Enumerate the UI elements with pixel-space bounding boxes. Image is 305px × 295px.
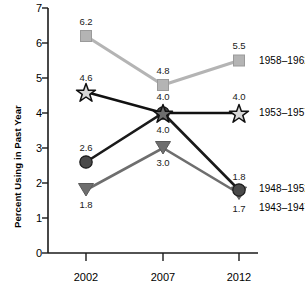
marker-1948-1952-2012 bbox=[233, 184, 245, 196]
marker-1958-1962-2012 bbox=[234, 55, 245, 66]
legend-label-1953-1957: 1953–1957 bbox=[259, 107, 305, 118]
data-label-1958-1962-2002: 6.2 bbox=[71, 16, 101, 27]
data-label-1943-1947-2012: 1.7 bbox=[224, 203, 254, 214]
marker-1943-1947-2002 bbox=[79, 184, 94, 197]
legend-label-1948-1952: 1948–1952 bbox=[259, 183, 305, 194]
line-chart: Percent Using in Past Year 7 6 5 4 3 2 1… bbox=[0, 0, 305, 295]
marker-1953-1957-2012 bbox=[230, 105, 249, 123]
data-label-1953-1957-2002: 4.6 bbox=[71, 72, 101, 83]
data-label-1943-1947-2002: 1.8 bbox=[71, 199, 101, 210]
marker-1958-1962-2007 bbox=[158, 80, 169, 91]
plot-area bbox=[0, 0, 305, 295]
series-line-1943-1947 bbox=[86, 148, 239, 194]
legend-label-1958-1962: 1958–1962 bbox=[259, 55, 305, 66]
data-label-1943-1947-2007: 3.0 bbox=[148, 157, 178, 168]
data-label-1948-1952-2007: 4.0 bbox=[148, 124, 178, 135]
legend-label-1943-1947: 1943–1947 bbox=[259, 202, 305, 213]
marker-1958-1962-2002 bbox=[81, 31, 92, 42]
marker-1953-1957-2002 bbox=[77, 84, 96, 102]
series-line-1958-1962 bbox=[86, 36, 239, 85]
data-label-1958-1962-2007: 4.8 bbox=[148, 65, 178, 76]
data-label-1948-1952-2002: 2.6 bbox=[71, 142, 101, 153]
marker-1948-1952-2002 bbox=[80, 156, 92, 168]
data-label-1948-1952-2012: 1.8 bbox=[224, 171, 254, 182]
data-label-1953-1957-2012: 4.0 bbox=[224, 91, 254, 102]
data-label-1958-1962-2012: 5.5 bbox=[224, 40, 254, 51]
data-label-1953-1957-2007: 4.0 bbox=[148, 91, 178, 102]
